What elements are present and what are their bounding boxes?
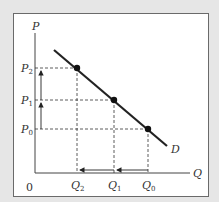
tick-q1: Q1 [108,179,122,193]
origin-label: 0 [26,181,33,194]
demand-curve [54,50,167,146]
demand-chart: P Q 0 D P2 P1 P0 Q2 Q1 Q0 [0,0,219,202]
x-axis-label: Q [193,167,202,180]
svg-text:Q1: Q1 [108,179,122,193]
tick-p0: P0 [20,123,33,137]
svg-text:Q2: Q2 [71,179,85,193]
point-q0-p0 [145,126,151,132]
demand-label: D [170,143,180,156]
tick-p1: P1 [20,94,33,108]
guide-lines [35,68,148,173]
y-axis-label: P [31,20,40,33]
svg-text:Q0: Q0 [142,179,156,193]
point-q2-p2 [74,65,80,71]
tick-q2: Q2 [71,179,85,193]
svg-text:P0: P0 [20,123,33,137]
tick-p2: P2 [20,62,33,76]
tick-q0: Q0 [142,179,156,193]
svg-text:P1: P1 [20,94,33,108]
point-q1-p1 [111,97,117,103]
svg-text:P2: P2 [20,62,33,76]
